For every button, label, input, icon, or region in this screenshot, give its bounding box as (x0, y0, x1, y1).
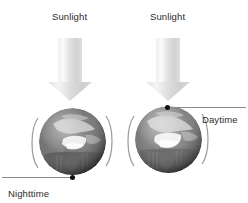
daytime-label: Daytime (202, 114, 238, 125)
sunlight-arrow-left-icon (47, 38, 93, 102)
sunlight-label-left: Sunlight (52, 11, 87, 22)
nighttime-pointer-line (2, 177, 72, 178)
earth-globe-left-icon (39, 108, 106, 175)
nighttime-marker-dot (70, 175, 75, 180)
day-night-diagram: Sunlight (0, 0, 248, 203)
globe-right (124, 104, 212, 178)
daytime-marker-dot (165, 105, 170, 110)
earth-globe-right-icon (135, 106, 202, 173)
sunlight-label-right: Sunlight (150, 11, 185, 22)
nighttime-label: Nighttime (8, 188, 49, 199)
sunlight-arrow-right-icon (145, 38, 191, 102)
globe-left (28, 106, 116, 180)
